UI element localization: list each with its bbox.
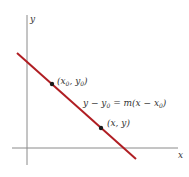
point-x-y-label: (x, y)	[107, 118, 130, 128]
point-slope-diagram: y x (x0, y0) y − y0 = m(x − x0) (x, y)	[0, 0, 189, 177]
point-x0-y0-label: (x0, y0)	[57, 76, 88, 87]
x-axis-label: x	[178, 150, 183, 160]
point-x0-y0	[50, 82, 54, 86]
y-axis-label: y	[29, 14, 36, 24]
equation-label: y − y0 = m(x − x0)	[82, 98, 167, 109]
point-x-y	[99, 126, 103, 130]
